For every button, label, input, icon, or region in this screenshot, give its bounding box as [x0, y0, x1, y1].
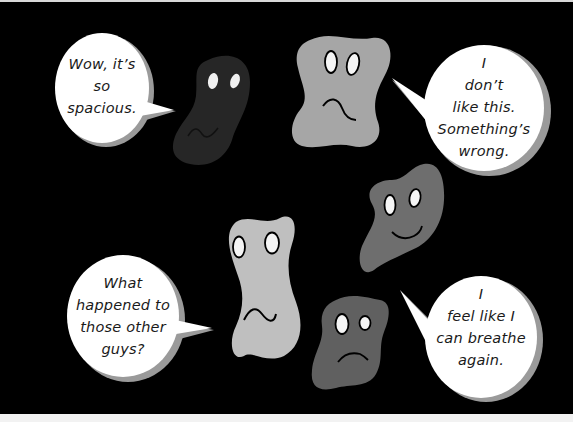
speech-line: again. [425, 349, 537, 371]
speech-line: I [425, 283, 537, 305]
gray-blob-right-character [360, 164, 444, 272]
speech-line: so [55, 75, 149, 97]
speech-text-bottom-right: I feel like I can breathe again. [425, 283, 537, 371]
speech-line: guys? [68, 338, 178, 360]
speech-line: can breathe [425, 327, 537, 349]
speech-line: spacious. [55, 97, 149, 119]
speech-text-top-right: I don’t like this. Something’s wrong. [424, 52, 544, 162]
eye-icon [360, 316, 371, 330]
eye-icon [336, 314, 349, 334]
speech-line: wrong. [424, 140, 544, 162]
speech-line: happened to [68, 294, 178, 316]
eye-icon [325, 51, 337, 73]
speech-line: Wow, it’s [55, 53, 149, 75]
light-blob-center-character [229, 217, 301, 359]
speech-line: feel like I [425, 305, 537, 327]
speech-text-bottom-left: What happened to those other guys? [68, 272, 178, 360]
eye-icon [385, 195, 396, 215]
gray-blob-top-character [292, 36, 391, 147]
dark-blob-character [173, 56, 250, 165]
speech-line: don’t [424, 74, 544, 96]
speech-line: What [68, 272, 178, 294]
speech-line: I [424, 52, 544, 74]
speech-line: those other [68, 316, 178, 338]
dark-gray-blob-bottom-character [312, 296, 389, 389]
speech-text-top-left: Wow, it’s so spacious. [55, 53, 149, 119]
eye-icon [265, 233, 279, 254]
eye-icon [233, 237, 245, 258]
speech-line: like this. [424, 96, 544, 118]
speech-line: Something’s [424, 118, 544, 140]
